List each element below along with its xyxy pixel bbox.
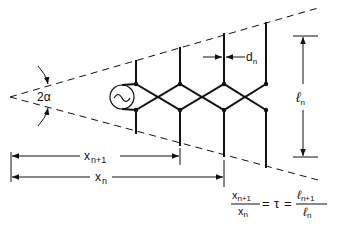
formula-tau: τ — [274, 196, 280, 211]
formula-den-right: ℓn — [303, 205, 311, 220]
generator-source — [110, 85, 134, 109]
formula-eq2: = — [284, 196, 292, 211]
angle-arrow-upper — [38, 66, 48, 84]
feed-lines — [122, 84, 266, 110]
x-next-label: xn+1 — [84, 149, 106, 165]
angle-arrow-lower — [38, 108, 48, 126]
spacing-label: dn — [246, 50, 257, 66]
distance-indicators — [11, 148, 224, 187]
angle-label: 2α — [37, 90, 51, 104]
x-n-label: xn — [95, 170, 107, 186]
lower-boundary-line — [10, 97, 318, 180]
formula: xn+1 xn = τ = ℓn+1 ℓn — [231, 188, 327, 220]
length-label: ℓn — [295, 89, 305, 107]
formula-num-left: xn+1 — [232, 189, 252, 203]
lpda-diagram: 2α dn ℓn — [0, 0, 340, 225]
upper-boundary-line — [10, 8, 318, 97]
formula-num-right: ℓn+1 — [297, 188, 315, 203]
formula-eq1: = — [262, 196, 270, 211]
formula-den-left: xn — [238, 205, 248, 219]
